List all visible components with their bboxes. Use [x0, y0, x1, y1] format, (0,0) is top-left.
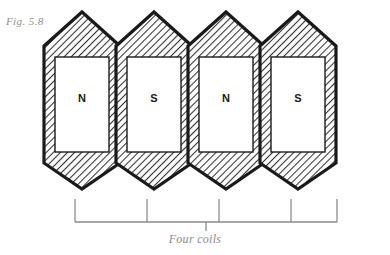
coil-group-4[interactable]: S: [260, 12, 336, 189]
pole-label-4: S: [294, 92, 301, 104]
coil-core-2: [127, 57, 181, 152]
magnet-coil-diagram: N S N S: [0, 0, 390, 255]
pole-label-1: N: [78, 92, 86, 104]
coil-group-3[interactable]: N: [188, 12, 264, 189]
figure-canvas: N S N S: [0, 0, 390, 255]
coil-group-2[interactable]: S: [116, 12, 192, 189]
coil-core-4: [271, 57, 325, 152]
coil-core-3: [199, 57, 253, 152]
pole-label-2: S: [150, 92, 157, 104]
coil-core-1: [55, 57, 109, 152]
coil-group-1[interactable]: N: [44, 12, 120, 189]
figure-caption: Four coils: [0, 232, 390, 247]
pole-label-3: N: [222, 92, 230, 104]
figure-number-label: Fig. 5.8: [6, 15, 44, 27]
coils-bracket: [75, 199, 337, 231]
